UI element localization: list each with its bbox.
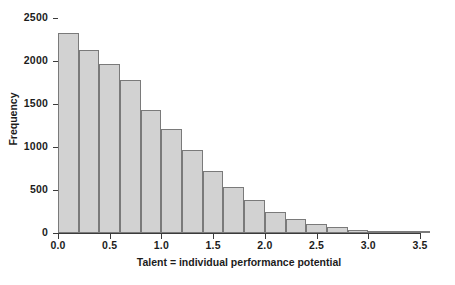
y-axis-tick-label: 2500 <box>0 11 48 23</box>
x-axis-tick-label: 1.5 <box>193 239 233 251</box>
x-axis-title: Talent = individual performance potentia… <box>58 256 420 268</box>
y-axis-tick <box>53 18 58 19</box>
y-axis-tick <box>53 61 58 62</box>
plot-area <box>58 18 420 233</box>
histogram-bar <box>141 110 162 233</box>
histogram-bar <box>79 50 100 233</box>
y-axis-tick <box>53 190 58 191</box>
x-axis-tick-label: 0.0 <box>38 239 78 251</box>
x-axis-tick-label: 3.5 <box>400 239 440 251</box>
histogram-bar <box>286 219 307 233</box>
x-axis-tick-label: 1.0 <box>141 239 181 251</box>
y-axis-tick <box>53 104 58 105</box>
histogram-bar <box>203 171 224 233</box>
y-axis-tick <box>53 233 58 234</box>
y-axis-tick-label: 500 <box>0 183 48 195</box>
histogram-bar <box>306 224 327 233</box>
x-axis-tick-label: 0.5 <box>90 239 130 251</box>
x-axis-line <box>58 233 421 234</box>
y-axis-tick <box>53 147 58 148</box>
x-axis-tick-label: 3.0 <box>348 239 388 251</box>
y-axis-tick-label: 0 <box>0 226 48 238</box>
histogram-bar <box>182 150 203 233</box>
x-axis-tick-label: 2.5 <box>297 239 337 251</box>
histogram-bar <box>265 212 286 233</box>
histogram-bar <box>99 64 120 233</box>
y-axis-title: Frequency <box>7 79 19 159</box>
histogram-bar <box>244 200 265 233</box>
y-axis-tick-label: 2000 <box>0 54 48 66</box>
histogram-bar <box>161 129 182 233</box>
x-axis-tick-label: 2.0 <box>245 239 285 251</box>
histogram-figure: 0.00.51.01.52.02.53.03.5 050010001500200… <box>0 0 455 285</box>
histogram-bar <box>120 80 141 233</box>
histogram-bar <box>58 33 79 233</box>
histogram-bar <box>223 187 244 233</box>
